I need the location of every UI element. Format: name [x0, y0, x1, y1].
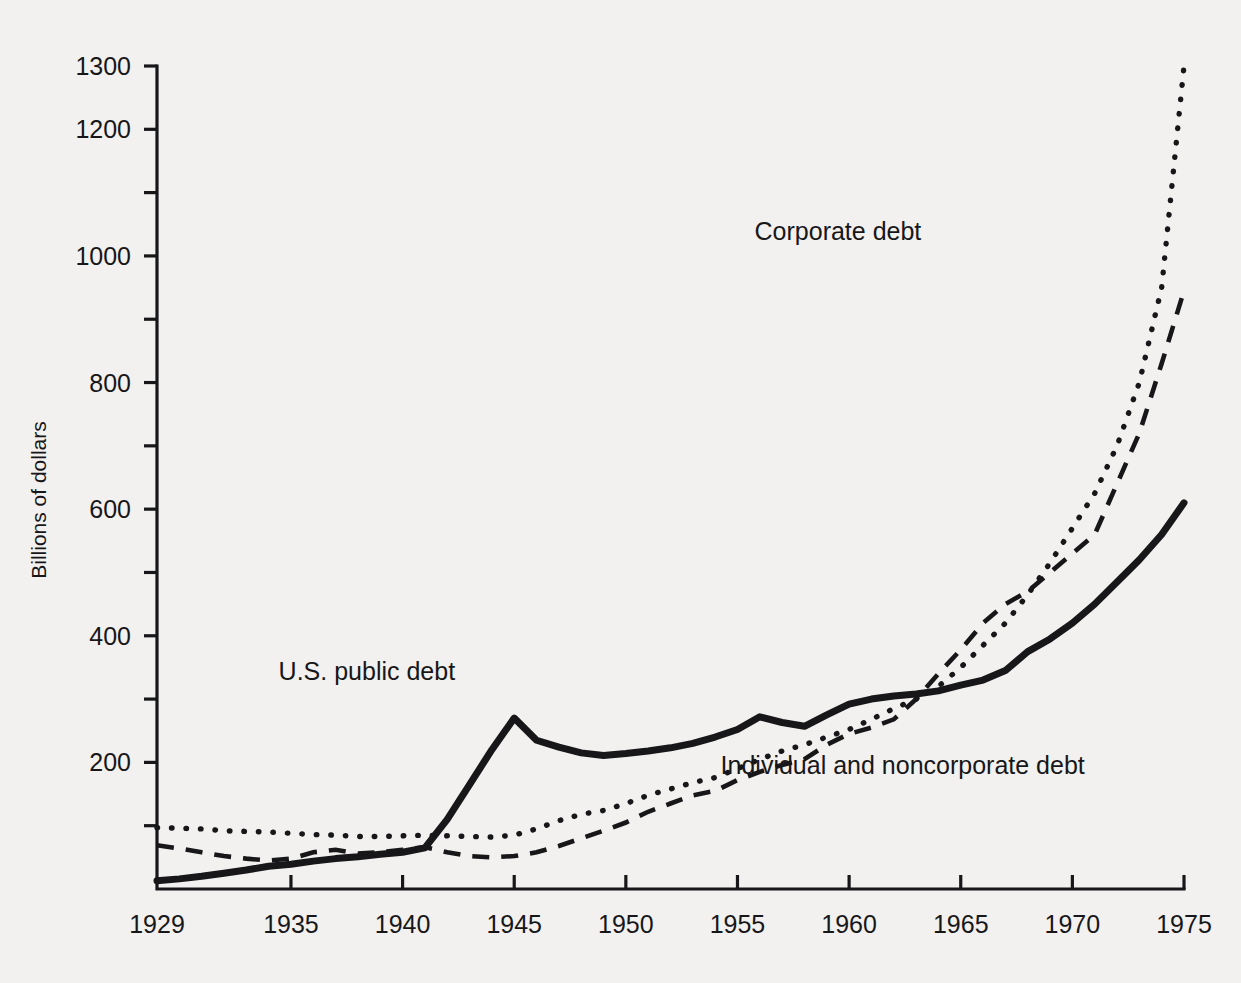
x-tick-label-1965: 1965: [933, 910, 989, 938]
x-tick-label-1929: 1929: [129, 910, 185, 938]
y-axis-ticks: [144, 66, 157, 826]
x-tick-label-1960: 1960: [821, 910, 877, 938]
series-line-corporate-debt: [157, 66, 1184, 837]
x-tick-label-1940: 1940: [375, 910, 431, 938]
y-tick-label-600: 600: [89, 495, 131, 523]
annotation-individual-and-noncorporate-debt: Individual and noncorporate debt: [721, 751, 1085, 779]
y-tick-label-1000: 1000: [75, 242, 131, 270]
x-axis-tick-labels: 1929193519401945195019551960196519701975: [129, 910, 1212, 938]
x-tick-label-1945: 1945: [486, 910, 542, 938]
y-tick-label-800: 800: [89, 369, 131, 397]
x-tick-label-1970: 1970: [1045, 910, 1101, 938]
x-tick-label-1955: 1955: [710, 910, 766, 938]
chart-page: 200400600800100012001300 192919351940194…: [0, 0, 1241, 983]
x-tick-label-1950: 1950: [598, 910, 654, 938]
series-annotations: U.S. public debtCorporate debtIndividual…: [279, 217, 1085, 779]
debt-line-chart: 200400600800100012001300 192919351940194…: [0, 0, 1241, 983]
x-tick-label-1935: 1935: [263, 910, 319, 938]
series-line-u-s-public-debt: [157, 503, 1184, 881]
annotation-corporate-debt: Corporate debt: [755, 217, 922, 245]
x-axis-ticks: [291, 875, 1184, 889]
y-tick-label-1300: 1300: [75, 52, 131, 80]
y-tick-label-200: 200: [89, 748, 131, 776]
y-axis-tick-labels: 200400600800100012001300: [75, 52, 131, 776]
x-tick-label-1975: 1975: [1156, 910, 1212, 938]
y-axis-title-group: Billions of dollars: [27, 421, 50, 579]
y-axis-title: Billions of dollars: [27, 421, 50, 579]
annotation-u-s-public-debt: U.S. public debt: [279, 657, 456, 685]
y-tick-label-1200: 1200: [75, 115, 131, 143]
y-tick-label-400: 400: [89, 622, 131, 650]
